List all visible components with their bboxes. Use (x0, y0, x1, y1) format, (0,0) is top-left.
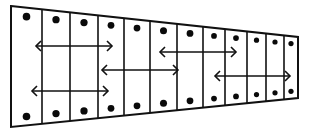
dot-top (233, 35, 239, 41)
dot-top (187, 30, 194, 37)
dot-top (108, 22, 115, 29)
dot-top (52, 16, 59, 23)
dot-bottom (108, 105, 115, 112)
dot-bottom (187, 97, 194, 104)
dot-bottom (80, 107, 87, 114)
dot-bottom (272, 90, 277, 95)
dot-bottom (52, 110, 59, 117)
dot-top (134, 25, 141, 32)
dot-bottom (160, 100, 167, 107)
dot-bottom (233, 94, 239, 100)
dot-bottom (23, 113, 31, 121)
dot-top (288, 41, 293, 46)
dot-bottom (288, 89, 293, 94)
dot-top (160, 27, 167, 34)
dot-bottom (254, 92, 259, 97)
dot-top (254, 38, 259, 43)
dot-top (272, 39, 277, 44)
dot-top (211, 33, 217, 39)
tapered-column-diagram (0, 0, 309, 129)
trapezoid-outline (11, 6, 298, 127)
dot-bottom (211, 96, 217, 102)
dot-bottom (134, 102, 141, 109)
dot-top (23, 13, 31, 21)
dot-top (80, 19, 87, 26)
